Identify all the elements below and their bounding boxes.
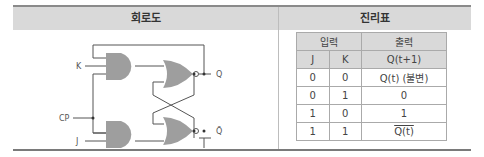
q-label: Q — [216, 70, 222, 79]
col-j: J — [297, 51, 330, 69]
truth-table: 입력 출력 J K Q(t+1) 0 0 Q(t) (불변) 0 1 0 1 0… — [296, 32, 447, 141]
cell: 1 — [297, 105, 330, 123]
table-row: 1 1 Q(t) — [297, 123, 447, 141]
cell: 0 — [329, 105, 362, 123]
jk-flipflop-figure: 회로도 진리표 — [13, 5, 471, 151]
col-q-next: Q(t+1) — [362, 51, 447, 69]
column-divider — [278, 7, 279, 151]
cell: 1 — [297, 123, 330, 141]
col-k: K — [329, 51, 362, 69]
cell: 1 — [329, 87, 362, 105]
group-header-row: 입력 출력 — [297, 33, 447, 51]
output-group-header: 출력 — [362, 33, 447, 51]
k-label: K — [76, 62, 82, 71]
cell: 0 — [362, 87, 447, 105]
q-bar-label: Q̄ — [216, 126, 222, 136]
input-group-header: 입력 — [297, 33, 362, 51]
circuit-diagram: K CP J Q Q̄ — [13, 33, 278, 148]
cell: 0 — [329, 69, 362, 87]
cell-q-complement: Q(t) — [362, 123, 447, 141]
cell: Q(t) (불변) — [362, 69, 447, 87]
table-row: 0 0 Q(t) (불변) — [297, 69, 447, 87]
cell: 1 — [329, 123, 362, 141]
table-row: 0 1 0 — [297, 87, 447, 105]
cell: 0 — [297, 87, 330, 105]
bottom-rule — [13, 149, 471, 151]
cp-label: CP — [59, 114, 70, 123]
header-band: 회로도 진리표 — [13, 7, 471, 30]
j-label: J — [75, 137, 78, 146]
truth-table-header: 진리표 — [279, 7, 471, 30]
circuit-header: 회로도 — [13, 7, 278, 30]
column-header-row: J K Q(t+1) — [297, 51, 447, 69]
cell: 1 — [362, 105, 447, 123]
table-row: 1 0 1 — [297, 105, 447, 123]
cell: 0 — [297, 69, 330, 87]
